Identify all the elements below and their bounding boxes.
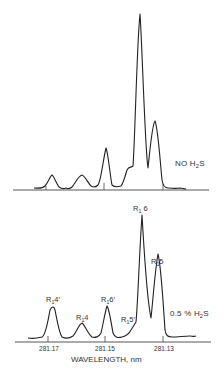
peak-label-r1-5: R15 — [151, 258, 164, 266]
top-condition-suffix: S — [199, 159, 205, 168]
bottom-condition-label: 0.5 % H2S — [170, 310, 209, 318]
peak-label-r1-4: R14 — [76, 314, 89, 322]
peak-label-r1-6: R1 6 — [133, 205, 148, 213]
peak-label-r1-5prime: R15′ — [121, 316, 135, 324]
x-axis-label: WAVELENGTH, nm — [71, 356, 142, 364]
bottom-condition-prefix: 0.5 % H — [170, 309, 200, 318]
tick-label-281-17: 281.17 — [39, 346, 59, 353]
tick-label-281-13: 281.13 — [154, 346, 174, 353]
peak-label-r1-6prime: R16′ — [101, 296, 115, 304]
top-condition-prefix: NO H — [175, 159, 196, 168]
top-condition-label: NO H2S — [175, 160, 205, 168]
peak-label-tail: 6′ — [109, 295, 115, 304]
tick-label-281-15: 281.15 — [95, 346, 115, 353]
spectra-figure — [0, 0, 224, 377]
peak-label-tail: 5′ — [129, 315, 135, 324]
peak-label-tail: 6 — [143, 204, 147, 213]
peak-label-sub: 1 — [138, 208, 141, 214]
peak-label-r1-4prime: R14′ — [46, 296, 60, 304]
bottom-condition-suffix: S — [203, 309, 209, 318]
peak-label-tail: 4 — [84, 313, 88, 322]
peak-label-tail: 4′ — [54, 295, 60, 304]
bottom-spectrum-trace — [28, 215, 196, 338]
top-spectrum-trace — [34, 14, 186, 189]
peak-label-tail: 5 — [159, 257, 163, 266]
